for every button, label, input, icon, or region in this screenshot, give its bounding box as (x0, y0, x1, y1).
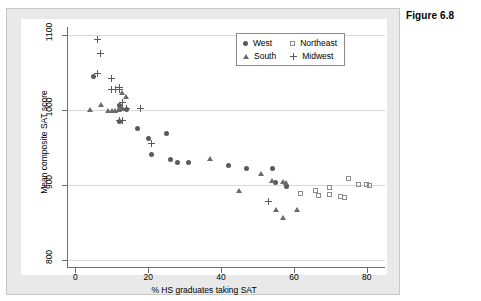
x-tick-label: 20 (133, 272, 163, 282)
x-axis-title: % HS graduates taking SAT (21, 285, 387, 295)
y-tick-label: 800 (44, 242, 54, 272)
y-tick (62, 35, 67, 36)
data-point-midwest (108, 75, 115, 82)
data-point-west (186, 160, 191, 165)
x-tick-label: 80 (352, 272, 382, 282)
y-tick-label-box: 1100 (41, 20, 57, 50)
y-axis-title: Mean composite SAT score (39, 62, 49, 222)
gridline (68, 260, 385, 261)
x-tick-label: 40 (206, 272, 236, 282)
x-tick-label: 60 (279, 272, 309, 282)
data-point-midwest (94, 70, 101, 77)
data-point-west (284, 184, 289, 189)
data-point-south (236, 188, 242, 193)
y-tick (62, 185, 67, 186)
data-point-northeast (316, 193, 321, 198)
data-point-south (98, 102, 104, 107)
legend-item-northeast: Northeast (290, 38, 337, 48)
scatter-plot: 80090010001100 020406080 % HS graduates … (21, 19, 387, 275)
y-tick (62, 260, 67, 261)
data-point-south (207, 156, 213, 161)
data-point-northeast (327, 192, 332, 197)
legend-marker-open-square-icon (290, 41, 295, 46)
legend-item-west: West (243, 38, 276, 48)
data-point-midwest (137, 105, 144, 112)
data-point-west (164, 131, 169, 136)
figure-panel: 80090010001100 020406080 % HS graduates … (6, 8, 400, 295)
data-point-west (244, 166, 249, 171)
legend-label: Midwest (302, 51, 333, 61)
y-axis-line (67, 27, 68, 267)
figure-page: Figure 6.8 80090010001100 020406080 % HS… (0, 0, 481, 301)
data-point-west (226, 163, 231, 168)
data-point-northeast (346, 176, 351, 181)
data-point-south (87, 107, 93, 112)
data-point-south (294, 207, 300, 212)
legend-item-south: South (243, 51, 276, 61)
x-tick-label: 0 (60, 272, 90, 282)
data-point-northeast (367, 183, 372, 188)
data-point-west (135, 126, 140, 131)
legend-entries: WestNortheastSouthMidwest (243, 38, 337, 61)
data-point-south (280, 215, 286, 220)
legend-item-midwest: Midwest (290, 51, 337, 61)
y-tick (62, 110, 67, 111)
data-point-northeast (298, 191, 303, 196)
figure-caption: Figure 6.8 (406, 10, 454, 21)
data-point-midwest (119, 117, 126, 124)
data-point-northeast (327, 185, 332, 190)
data-point-midwest (123, 105, 130, 112)
data-point-midwest (116, 84, 123, 91)
data-point-west (270, 166, 275, 171)
legend: WestNortheastSouthMidwest (236, 33, 345, 66)
legend-marker-filled-triangle-icon (243, 54, 249, 59)
data-point-west (175, 160, 180, 165)
data-point-south (258, 171, 264, 176)
data-point-south (269, 178, 275, 183)
data-point-west (149, 152, 154, 157)
gridline (68, 185, 385, 186)
y-tick-label-box: 800 (41, 245, 57, 275)
data-point-west (168, 157, 173, 162)
legend-marker-filled-circle-icon (243, 41, 248, 46)
legend-label: West (253, 38, 272, 48)
legend-marker-plus-icon (290, 53, 297, 60)
data-point-midwest (97, 50, 104, 57)
x-axis-line (67, 267, 385, 268)
y-tick-label: 1100 (44, 17, 54, 47)
data-point-midwest (265, 198, 272, 205)
data-point-midwest (94, 36, 101, 43)
data-point-south (283, 180, 289, 185)
data-point-northeast (356, 182, 361, 187)
data-point-south (273, 207, 279, 212)
data-point-midwest (148, 140, 155, 147)
legend-label: Northeast (300, 38, 337, 48)
data-point-northeast (342, 195, 347, 200)
legend-label: South (254, 51, 276, 61)
